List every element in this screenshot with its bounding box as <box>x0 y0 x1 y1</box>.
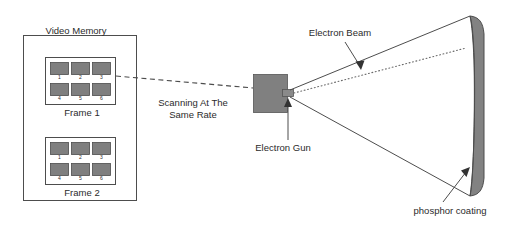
electron-gun-label: Electron Gun <box>255 142 310 154</box>
scanning-rate-label-line-1: Scanning At The <box>158 97 228 109</box>
frame-2-cell-6-number: 6 <box>100 175 103 181</box>
electron-gun-nozzle <box>283 90 294 97</box>
frame-2-cell-5-number: 5 <box>79 175 82 181</box>
frame-2-cell-1 <box>51 143 69 155</box>
frame-2-cell-4-number: 4 <box>58 175 61 181</box>
phosphor-coating-label: phosphor coating <box>414 205 487 217</box>
electron-beam-arrow-head <box>356 61 365 71</box>
frame-2-cell-2-number: 2 <box>79 154 82 160</box>
frame-2-cell-1-number: 1 <box>58 154 61 160</box>
beam-center-dotted-line <box>294 48 466 93</box>
frame-1-cell-3 <box>93 63 111 75</box>
phosphor-coating-arrow-head <box>461 167 470 177</box>
video-memory-label: Video Memory <box>45 25 106 37</box>
frame-2-cell-5 <box>72 164 90 176</box>
frame-2-caption: Frame 2 <box>64 187 99 199</box>
crt-screen-face <box>470 16 484 196</box>
frame-2-cell-3-number: 3 <box>100 154 103 160</box>
frame-1-cell-6-number: 6 <box>100 95 103 101</box>
frame-1-cell-3-number: 3 <box>100 74 103 80</box>
frame-1-cell-4 <box>51 84 69 96</box>
frame-2-cell-6 <box>93 164 111 176</box>
frame-1-caption: Frame 1 <box>64 107 99 119</box>
scanning-rate-label-line-2: Same Rate <box>158 109 228 121</box>
cone-lower-edge <box>290 97 470 196</box>
crt-scanning-diagram: Video Memory Frame 1 Frame 2 Scanning At… <box>0 0 509 229</box>
frame-2-cell-3 <box>93 143 111 155</box>
frame-1-cell-5-number: 5 <box>79 95 82 101</box>
frame-1-cell-2 <box>72 63 90 75</box>
electron-beam-label: Electron Beam <box>309 27 371 39</box>
frame-1-cell-1 <box>51 63 69 75</box>
frame-2-cell-4 <box>51 164 69 176</box>
phosphor-coating-arrow-line <box>443 172 466 202</box>
frame-1-cell-2-number: 2 <box>79 74 82 80</box>
scanning-rate-label: Scanning At The Same Rate <box>158 97 228 121</box>
frame-1-cell-5 <box>72 84 90 96</box>
frame-2-cell-2 <box>72 143 90 155</box>
frame-1-cell-6 <box>93 84 111 96</box>
frame-1-cell-4-number: 4 <box>58 95 61 101</box>
frame-1-cell-1-number: 1 <box>58 74 61 80</box>
